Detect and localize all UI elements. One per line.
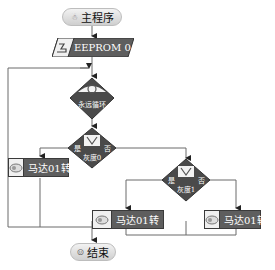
flowchart-canvas: ☃ 主程序 EEPROM 0 永远循环 是 否 灰度0 是 否 灰度1 马达01… <box>0 0 275 270</box>
motor-block-left[interactable]: 马达01转 <box>8 158 69 177</box>
sensor-icon <box>178 166 194 177</box>
loop-label: 永远循环 <box>74 99 110 109</box>
motor-block-right[interactable]: 马达01转 <box>204 210 261 229</box>
eeprom-label: EEPROM 0 <box>74 38 131 57</box>
end-label: 结束 <box>87 244 109 260</box>
motor-block-middle[interactable]: 马达01转 <box>92 210 164 229</box>
motor-middle-label: 马达01转 <box>112 211 163 228</box>
motor-icon <box>205 211 220 228</box>
motor-right-label: 马达01转 <box>220 211 267 228</box>
connector-lines <box>0 0 275 270</box>
motor-icon <box>93 211 112 228</box>
motor-icon <box>9 159 24 176</box>
loop-icon <box>88 85 96 93</box>
end-icon: ☺ <box>77 248 84 257</box>
write-icon <box>56 40 68 54</box>
sensor-icon <box>84 135 100 146</box>
end-node[interactable]: ☺ 结束 <box>70 243 116 261</box>
motor-left-label: 马达01转 <box>24 159 71 176</box>
program-icon: ☃ <box>71 13 78 22</box>
decision1-label: 灰度0 <box>78 152 106 162</box>
decision2-label: 灰度1 <box>172 184 200 194</box>
start-label: 主程序 <box>81 9 114 25</box>
eeprom-node[interactable]: EEPROM 0 <box>52 38 134 57</box>
start-node[interactable]: ☃ 主程序 <box>62 8 122 26</box>
